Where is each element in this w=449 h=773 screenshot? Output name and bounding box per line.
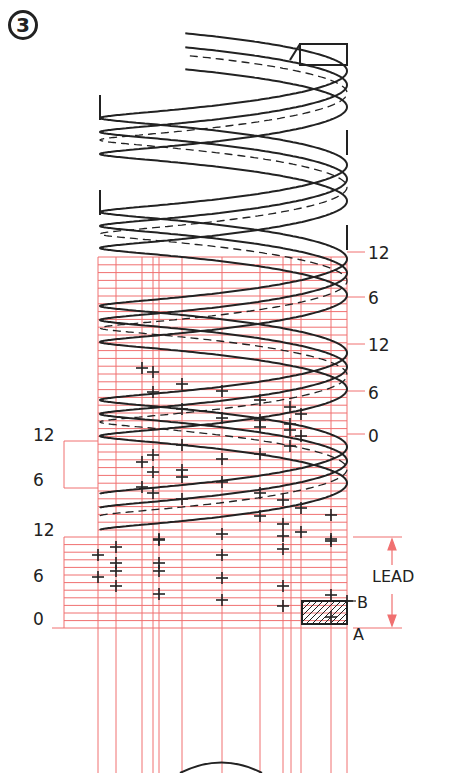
helix-outline bbox=[100, 33, 348, 773]
left-scale-label: 6 bbox=[33, 568, 44, 585]
left-scale-label: 12 bbox=[33, 427, 55, 444]
right-scale-label: 12 bbox=[368, 337, 390, 354]
drawing-canvas bbox=[0, 0, 449, 773]
point-a-label: A bbox=[353, 627, 364, 643]
point-b-label: B bbox=[357, 595, 368, 611]
left-scale-label: 6 bbox=[33, 472, 44, 489]
spring-drawing: 3 1261260 1261260 LEAD B A bbox=[0, 0, 449, 773]
right-scale-label: 12 bbox=[368, 245, 390, 262]
right-scale-label: 6 bbox=[368, 385, 379, 402]
right-scale-label: 0 bbox=[368, 428, 379, 445]
right-scale-label: 6 bbox=[368, 290, 379, 307]
left-scale-label: 0 bbox=[33, 611, 44, 628]
left-scale-label: 12 bbox=[33, 522, 55, 539]
lead-label: LEAD bbox=[372, 569, 414, 585]
